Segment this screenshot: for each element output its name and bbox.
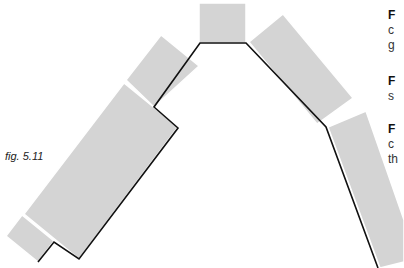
side-paragraph-2: F s	[388, 74, 395, 104]
side-paragraph-2-heading: F	[388, 74, 395, 88]
upper-right-rect	[249, 14, 353, 124]
side-paragraph-3-line-1: c	[388, 137, 398, 152]
side-paragraph-1-heading: F	[388, 8, 395, 22]
side-paragraph-2-line-1: s	[388, 89, 395, 104]
large-lower-left-rect	[24, 83, 178, 259]
figure-caption: fig. 5.11	[5, 150, 43, 162]
side-paragraph-3-line-2: th	[388, 152, 398, 167]
top-square	[199, 3, 246, 43]
side-paragraph-1-line-1: c	[388, 23, 395, 38]
side-paragraph-3: F c th	[388, 122, 398, 167]
side-paragraph-3-heading: F	[388, 122, 395, 136]
folded-strip-diagram	[0, 0, 404, 268]
side-paragraph-1-line-2: g	[388, 38, 395, 53]
side-paragraph-1: F c g	[388, 8, 395, 53]
